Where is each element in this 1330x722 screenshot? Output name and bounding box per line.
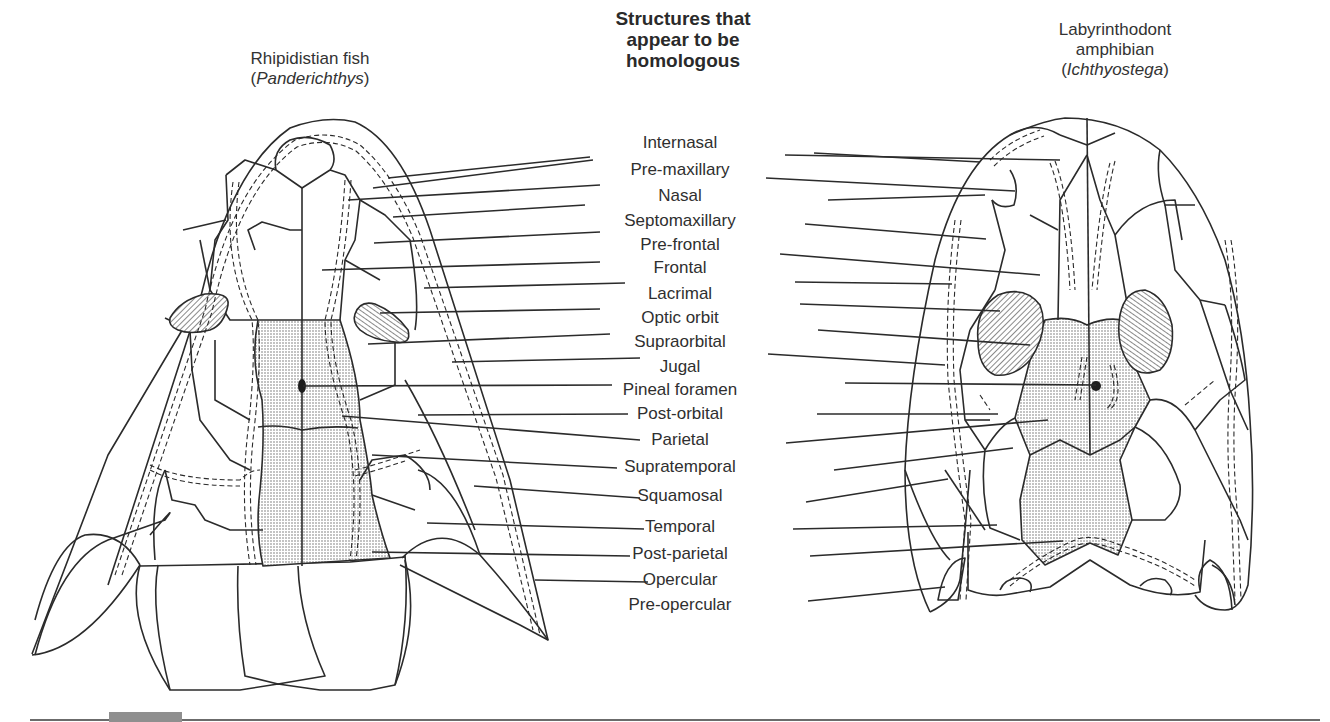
- leader-line: [793, 525, 997, 529]
- leader-line: [800, 304, 1000, 311]
- label-post-parietal: Post-parietal: [632, 544, 727, 564]
- label-internasal: Internasal: [643, 133, 718, 153]
- leader-line: [535, 580, 648, 582]
- label-squamosal: Squamosal: [637, 486, 722, 506]
- leader-line: [372, 552, 630, 556]
- label-parietal: Parietal: [651, 430, 709, 450]
- label-optic-orbit: Optic orbit: [641, 308, 718, 328]
- label-septomaxillary: Septomaxillary: [624, 211, 736, 231]
- leader-line: [806, 479, 948, 502]
- label-frontal: Frontal: [654, 258, 707, 278]
- leader-line: [348, 185, 600, 200]
- leader-line: [452, 358, 640, 362]
- label-post-orbital: Post-orbital: [637, 404, 723, 424]
- leader-line: [828, 195, 985, 200]
- leader-line: [768, 354, 945, 365]
- label-jugal: Jugal: [660, 357, 701, 377]
- label-nasal: Nasal: [658, 186, 701, 206]
- label-pre-maxillary: Pre-maxillary: [630, 160, 729, 180]
- leader-line: [388, 157, 590, 178]
- page-tab-marker: [109, 712, 182, 722]
- leader-line: [766, 178, 1015, 191]
- leader-line: [427, 523, 644, 529]
- amphibian-skull-drawing: [905, 118, 1253, 612]
- leader-line: [303, 385, 612, 386]
- leader-line: [418, 414, 628, 415]
- label-pineal-foramen: Pineal foramen: [623, 380, 737, 400]
- label-pre-opercular: Pre-opercular: [629, 595, 732, 615]
- leader-line: [474, 486, 640, 498]
- label-supraorbital: Supraorbital: [634, 332, 726, 352]
- leader-line: [805, 224, 986, 239]
- label-lacrimal: Lacrimal: [648, 284, 712, 304]
- leader-line: [786, 420, 1048, 443]
- leader-line: [372, 455, 617, 468]
- label-opercular: Opercular: [643, 570, 718, 590]
- label-supratemporal: Supratemporal: [624, 457, 736, 477]
- leader-line: [424, 283, 625, 288]
- leader-line: [834, 448, 1013, 470]
- leader-line: [380, 309, 600, 313]
- leader-line: [322, 262, 600, 270]
- label-pre-frontal: Pre-frontal: [640, 235, 719, 255]
- leader-line: [795, 282, 952, 284]
- label-temporal: Temporal: [645, 517, 715, 537]
